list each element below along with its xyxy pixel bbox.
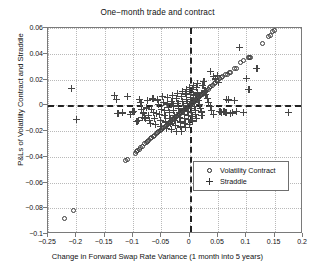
data-point-plus — [124, 93, 131, 100]
data-point-plus — [243, 75, 250, 82]
x-tick-label: −0.1 — [125, 238, 139, 245]
gridline-horizontal — [48, 208, 301, 209]
plus-marker-icon — [198, 176, 220, 187]
data-point-circle — [272, 28, 277, 33]
x-tick-label: 0.05 — [210, 238, 224, 245]
data-point-circle — [248, 55, 253, 60]
chart-figure: One−month trade and contract P&Ls of Vol… — [0, 0, 315, 270]
reference-line-vertical — [190, 28, 192, 232]
x-tick-label: −0.15 — [95, 238, 113, 245]
x-tick-mark — [104, 233, 105, 237]
gridline-horizontal — [48, 80, 301, 81]
gridline-vertical — [76, 28, 77, 232]
data-point-plus — [253, 65, 260, 72]
gridline-vertical — [48, 28, 49, 232]
gridline-vertical — [218, 28, 219, 232]
y-tick-label: −0.04 — [25, 152, 43, 159]
x-tick-label: −0.05 — [151, 238, 169, 245]
chart-title: One−month trade and contract — [0, 8, 315, 17]
x-tick-label: 0 — [187, 238, 191, 245]
x-tick-mark — [75, 233, 76, 237]
data-point-plus — [130, 108, 137, 115]
x-tick-mark — [47, 233, 48, 237]
x-tick-label: 0.1 — [240, 238, 250, 245]
y-tick-label: 0.06 — [29, 24, 43, 31]
data-point-plus — [119, 109, 126, 116]
data-point-plus — [200, 78, 207, 85]
y-tick-label: −0.08 — [25, 204, 43, 211]
legend-entry-straddle: Straddle — [198, 176, 284, 187]
x-tick-label: −0.2 — [68, 238, 82, 245]
circle-marker-icon — [198, 165, 220, 176]
x-tick-mark — [132, 233, 133, 237]
x-tick-mark — [217, 233, 218, 237]
x-tick-mark — [302, 233, 303, 237]
data-point-plus — [73, 116, 80, 123]
data-point-plus — [285, 109, 292, 116]
y-tick-label: −0.02 — [25, 127, 43, 134]
data-point-circle — [62, 216, 67, 221]
gridline-horizontal — [48, 54, 301, 55]
x-tick-label: 0.15 — [267, 238, 281, 245]
gridline-vertical — [275, 28, 276, 232]
data-point-plus — [113, 96, 120, 103]
legend-label: Volatility Contract — [220, 166, 276, 175]
data-point-plus — [231, 97, 238, 104]
x-tick-mark — [245, 233, 246, 237]
y-tick-label: 0.02 — [29, 75, 43, 82]
gridline-vertical — [105, 28, 106, 232]
gridline-vertical — [133, 28, 134, 232]
x-tick-label: −0.25 — [38, 238, 56, 245]
data-point-circle — [234, 66, 239, 71]
data-point-plus — [198, 112, 205, 119]
gridline-horizontal — [48, 157, 301, 158]
x-tick-label: 0.2 — [297, 238, 307, 245]
y-axis-ticks: 0.060.040.020−0.02−0.04−0.06−0.08−0.1 — [0, 27, 43, 233]
data-point-circle — [241, 58, 246, 63]
chart-legend: Volatility Contract Straddle — [193, 161, 289, 191]
data-point-plus — [240, 109, 247, 116]
x-axis-ticks: −0.25−0.2−0.15−0.1−0.0500.050.10.150.2 — [47, 233, 302, 253]
data-point-plus — [215, 79, 222, 86]
y-tick-label: 0.04 — [29, 49, 43, 56]
x-tick-mark — [189, 233, 190, 237]
x-axis-label: Change in Forward Swap Rate Variance (1 … — [0, 252, 315, 261]
data-point-plus — [245, 86, 252, 93]
data-point-circle — [260, 41, 265, 46]
plot-area: Volatility Contract Straddle — [47, 27, 302, 233]
legend-entry-volatility-contract: Volatility Contract — [198, 165, 284, 176]
y-tick-label: −0.1 — [29, 230, 43, 237]
gridline-horizontal — [48, 28, 301, 29]
data-point-plus — [68, 85, 75, 92]
legend-label: Straddle — [220, 177, 247, 186]
y-tick-label: −0.06 — [25, 178, 43, 185]
x-tick-mark — [160, 233, 161, 237]
data-point-plus — [236, 44, 243, 51]
x-tick-mark — [274, 233, 275, 237]
